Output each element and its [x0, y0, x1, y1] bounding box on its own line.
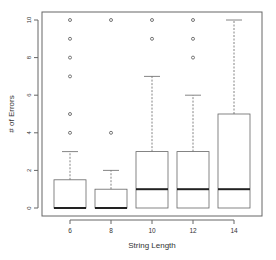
- outlier-point: [69, 131, 72, 134]
- y-tick-label: 8: [26, 55, 32, 59]
- box-8: [95, 19, 127, 209]
- outlier-point: [151, 37, 154, 40]
- x-tick-label: 6: [68, 227, 72, 234]
- boxes: [54, 19, 250, 209]
- box-12: [177, 19, 209, 209]
- boxplot-chart: 0246810 68101214 String Length # of Erro…: [0, 0, 276, 260]
- box-10: [136, 19, 168, 209]
- y-axis-label: # of Errors: [7, 95, 16, 132]
- x-axis-label: String Length: [128, 241, 176, 250]
- outlier-point: [110, 19, 113, 22]
- outlier-point: [69, 75, 72, 78]
- iqr-box: [177, 152, 209, 208]
- outlier-point: [151, 19, 154, 22]
- y-tick-label: 0: [26, 206, 32, 210]
- iqr-box: [54, 180, 86, 208]
- box-14: [218, 20, 250, 208]
- x-axis: 68101214: [68, 220, 238, 234]
- y-tick-label: 2: [26, 168, 32, 172]
- outlier-point: [69, 19, 72, 22]
- outlier-point: [192, 56, 195, 59]
- x-tick-label: 14: [230, 227, 238, 234]
- outlier-point: [69, 56, 72, 59]
- x-tick-label: 12: [189, 227, 197, 234]
- y-tick-label: 6: [26, 93, 32, 97]
- outlier-point: [69, 37, 72, 40]
- outlier-point: [110, 131, 113, 134]
- x-tick-label: 8: [109, 227, 113, 234]
- y-axis: 0246810: [26, 16, 38, 210]
- iqr-box: [218, 114, 250, 208]
- outlier-point: [192, 19, 195, 22]
- x-tick-label: 10: [148, 227, 156, 234]
- outlier-point: [69, 113, 72, 116]
- box-6: [54, 19, 86, 209]
- y-tick-label: 4: [26, 130, 32, 134]
- iqr-box: [136, 152, 168, 208]
- iqr-box: [95, 189, 127, 208]
- outlier-point: [192, 37, 195, 40]
- y-tick-label: 10: [26, 16, 32, 23]
